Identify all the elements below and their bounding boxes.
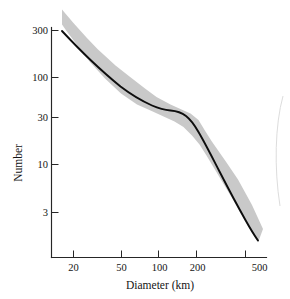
size-distribution-chart: 300 100 30 10 3 20 50 100 200 500 Diamet… [0, 0, 290, 299]
uncertainty-band [62, 10, 263, 243]
x-tick-label-20: 20 [68, 262, 79, 273]
page-edge-artifact [276, 96, 283, 206]
x-tick-label-200: 200 [190, 262, 206, 273]
x-tick-label-500: 500 [252, 262, 268, 273]
y-axis-title: Number [12, 144, 24, 182]
y-axis-tick-labels: 300 100 30 10 3 [32, 25, 48, 218]
y-tick-label-3: 3 [43, 207, 48, 218]
x-axis-title: Diameter (km) [126, 279, 194, 292]
x-tick-label-50: 50 [116, 262, 127, 273]
figure-panel: 300 100 30 10 3 20 50 100 200 500 Diamet… [0, 0, 290, 299]
y-tick-label-10: 10 [38, 159, 49, 170]
y-tick-label-30: 30 [38, 112, 49, 123]
x-axis-tick-labels: 20 50 100 200 500 [68, 262, 267, 273]
y-tick-label-300: 300 [32, 25, 48, 36]
y-tick-label-100: 100 [32, 72, 48, 83]
x-tick-label-100: 100 [152, 262, 168, 273]
x-axis-ticks [74, 251, 246, 258]
y-axis-ticks [52, 31, 59, 213]
